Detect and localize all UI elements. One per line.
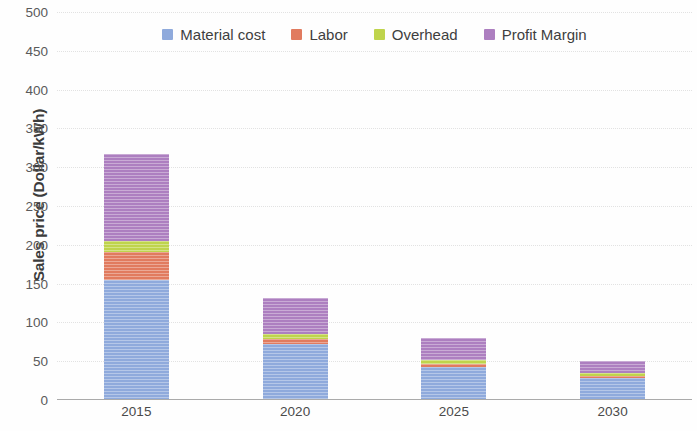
bar-segment-overhead-2020[interactable] <box>263 334 328 339</box>
y-axis-tick-500: 500 <box>0 5 48 20</box>
bar-segment-material-cost-2025[interactable] <box>421 367 486 400</box>
bar-segment-labor-2015[interactable] <box>104 252 169 280</box>
y-axis-tick-450: 450 <box>0 43 48 58</box>
y-axis-tick-200: 200 <box>0 237 48 252</box>
y-axis-tick-0: 0 <box>0 393 48 408</box>
bar-segment-profit-margin-2030[interactable] <box>580 361 645 373</box>
bar-segment-profit-margin-2025[interactable] <box>421 338 486 360</box>
y-axis-tick-400: 400 <box>0 82 48 97</box>
x-axis-line <box>57 399 692 400</box>
bar-group-2020[interactable] <box>263 298 328 400</box>
bar-segment-labor-2020[interactable] <box>263 339 328 344</box>
x-axis-tick-2025: 2025 <box>439 404 469 419</box>
x-axis-tick-2015: 2015 <box>121 404 151 419</box>
y-axis-tick-150: 150 <box>0 276 48 291</box>
bar-segment-material-cost-2015[interactable] <box>104 280 169 400</box>
bar-segment-profit-margin-2015[interactable] <box>104 154 169 241</box>
x-axis-tick-labels: 2015202020252030 <box>57 404 692 428</box>
y-axis-tick-labels: 500450400350300250200150100500 <box>0 0 52 431</box>
bar-segment-material-cost-2030[interactable] <box>580 378 645 400</box>
y-axis-tick-250: 250 <box>0 199 48 214</box>
bar-group-2030[interactable] <box>580 361 645 400</box>
plot-area: Material costLaborOverheadProfit Margin <box>57 12 692 400</box>
bar-segment-overhead-2030[interactable] <box>580 373 645 376</box>
bar-group-2015[interactable] <box>104 154 169 400</box>
bar-group-2025[interactable] <box>421 338 486 400</box>
x-axis-tick-2030: 2030 <box>598 404 628 419</box>
bar-segment-material-cost-2020[interactable] <box>263 344 328 400</box>
bar-series-container <box>57 12 692 400</box>
y-axis-tick-100: 100 <box>0 315 48 330</box>
bar-segment-overhead-2025[interactable] <box>421 360 486 364</box>
bar-segment-overhead-2015[interactable] <box>104 241 169 252</box>
bar-segment-profit-margin-2020[interactable] <box>263 298 328 334</box>
y-axis-tick-350: 350 <box>0 121 48 136</box>
bar-segment-labor-2030[interactable] <box>580 376 645 378</box>
stacked-bar-chart: Sales price (Dollar/kWh) 500450400350300… <box>0 0 697 431</box>
y-axis-tick-300: 300 <box>0 160 48 175</box>
bar-segment-labor-2025[interactable] <box>421 364 486 367</box>
y-axis-tick-50: 50 <box>0 354 48 369</box>
x-axis-tick-2020: 2020 <box>280 404 310 419</box>
